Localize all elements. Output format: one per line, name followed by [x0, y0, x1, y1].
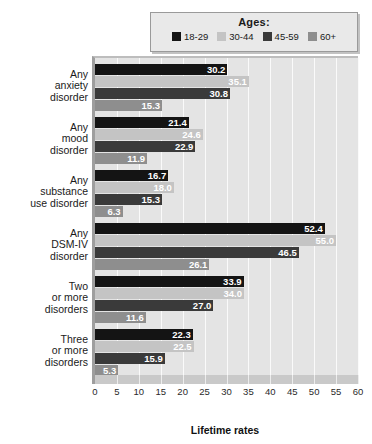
- bar-30-44[interactable]: 22.5: [95, 341, 194, 352]
- category-label-line: disorder: [0, 145, 88, 157]
- category-label: Anymooddisorder: [0, 122, 88, 157]
- bar-row: 46.5: [95, 247, 358, 258]
- category-label: Twoor moredisorders: [0, 281, 88, 316]
- bar-value-label: 30.8: [210, 89, 229, 99]
- chart-container: Ages: 18-2930-4445-5960+ Anyanxietydisor…: [0, 0, 372, 444]
- legend-item-label: 30-44: [229, 31, 253, 42]
- bar-18-29[interactable]: 22.3: [95, 329, 193, 340]
- bar-45-59[interactable]: 46.5: [95, 247, 299, 258]
- bar-row: 6.3: [95, 206, 358, 217]
- category-label-line: disorder: [0, 92, 88, 104]
- category-label-line: disorder: [0, 251, 88, 263]
- bar-45-59[interactable]: 15.9: [95, 353, 165, 364]
- bar-row: 21.4: [95, 117, 358, 128]
- x-tick-label: 0: [92, 386, 97, 397]
- bar-30-44[interactable]: 55.0: [95, 235, 336, 246]
- bar-value-label: 5.3: [103, 366, 116, 376]
- x-tick-label: 40: [265, 386, 276, 397]
- bar-value-label: 15.3: [142, 101, 161, 111]
- bar-value-label: 11.6: [126, 313, 144, 323]
- bar-row: 55.0: [95, 235, 358, 246]
- legend-item-label: 45-59: [275, 31, 299, 42]
- bar-60+[interactable]: 11.9: [95, 153, 147, 164]
- axis-band-tick: [183, 375, 184, 384]
- axis-band-tick: [336, 375, 337, 384]
- bar-row: 22.3: [95, 329, 358, 340]
- bar-60+[interactable]: 26.1: [95, 259, 209, 270]
- bar-row: 35.1: [95, 76, 358, 87]
- legend-items: 18-2930-4445-5960+: [151, 31, 357, 42]
- x-tick-label: 45: [287, 386, 298, 397]
- axis-band-tick: [358, 375, 359, 384]
- chart-legend: Ages: 18-2930-4445-5960+: [150, 12, 358, 52]
- bar-45-59[interactable]: 27.0: [95, 300, 213, 311]
- x-tick-label: 30: [221, 386, 232, 397]
- bar-value-label: 35.1: [228, 77, 247, 87]
- bar-row: 18.0: [95, 182, 358, 193]
- bar-row: 11.6: [95, 312, 358, 323]
- bar-row: 52.4: [95, 223, 358, 234]
- bar-30-44[interactable]: 24.6: [95, 129, 203, 140]
- bar-groups: 30.235.130.815.321.424.622.911.916.718.0…: [95, 58, 358, 384]
- legend-swatch-icon: [263, 32, 272, 41]
- legend-item-60+[interactable]: 60+: [308, 31, 336, 42]
- x-tick-label: 10: [134, 386, 145, 397]
- bar-30-44[interactable]: 18.0: [95, 182, 174, 193]
- bar-row: 15.3: [95, 194, 358, 205]
- bar-value-label: 22.3: [172, 330, 191, 340]
- category-label-line: use disorder: [0, 198, 88, 210]
- legend-item-label: 60+: [320, 31, 336, 42]
- axis-band-tick: [248, 375, 249, 384]
- bar-value-label: 33.9: [223, 277, 242, 287]
- bar-value-label: 15.3: [142, 195, 161, 205]
- bar-30-44[interactable]: 34.0: [95, 288, 244, 299]
- bar-60+[interactable]: 15.3: [95, 100, 162, 111]
- gridline: [358, 58, 359, 384]
- axis-band-tick: [139, 375, 140, 384]
- bar-45-59[interactable]: 15.3: [95, 194, 162, 205]
- bar-45-59[interactable]: 22.9: [95, 141, 195, 152]
- axis-band-tick: [227, 375, 228, 384]
- legend-item-30-44[interactable]: 30-44: [217, 31, 253, 42]
- bar-30-44[interactable]: 35.1: [95, 76, 249, 87]
- legend-title: Ages:: [151, 16, 357, 28]
- bar-row: 16.7: [95, 170, 358, 181]
- bar-value-label: 22.5: [173, 342, 192, 352]
- bar-row: 15.3: [95, 100, 358, 111]
- bar-18-29[interactable]: 16.7: [95, 170, 168, 181]
- bar-value-label: 52.4: [304, 224, 323, 234]
- legend-item-45-59[interactable]: 45-59: [263, 31, 299, 42]
- bar-row: 33.9: [95, 276, 358, 287]
- category-label-line: disorders: [0, 357, 88, 369]
- legend-swatch-icon: [217, 32, 226, 41]
- x-tick-label: 25: [199, 386, 210, 397]
- bar-60+[interactable]: 11.6: [95, 312, 146, 323]
- bar-18-29[interactable]: 52.4: [95, 223, 325, 234]
- bar-value-label: 21.4: [168, 118, 187, 128]
- category-label: Anysubstanceuse disorder: [0, 175, 88, 210]
- bar-value-label: 22.9: [175, 142, 194, 152]
- bar-value-label: 34.0: [224, 289, 243, 299]
- x-tick-label: 55: [331, 386, 342, 397]
- x-axis-ticks: 051015202530354045505560: [92, 386, 358, 402]
- bar-45-59[interactable]: 30.8: [95, 88, 230, 99]
- bar-value-label: 15.9: [144, 354, 163, 364]
- bar-group: 22.322.515.95.3: [95, 329, 358, 377]
- bar-60+[interactable]: 6.3: [95, 206, 123, 217]
- x-tick-label: 20: [177, 386, 188, 397]
- bar-18-29[interactable]: 30.2: [95, 64, 227, 75]
- axis-band-tick: [292, 375, 293, 384]
- legend-item-18-29[interactable]: 18-29: [172, 31, 208, 42]
- bar-value-label: 24.6: [182, 130, 201, 140]
- x-tick-label: 60: [353, 386, 364, 397]
- bar-row: 22.9: [95, 141, 358, 152]
- bar-row: 26.1: [95, 259, 358, 270]
- legend-swatch-icon: [308, 32, 317, 41]
- bar-group: 30.235.130.815.3: [95, 64, 358, 112]
- axis-band-tick: [205, 375, 206, 384]
- bar-18-29[interactable]: 21.4: [95, 117, 189, 128]
- category-label: Threeor moredisorders: [0, 334, 88, 369]
- bar-value-label: 55.0: [316, 236, 335, 246]
- category-label: AnyDSM-IVdisorder: [0, 228, 88, 263]
- bar-18-29[interactable]: 33.9: [95, 276, 244, 287]
